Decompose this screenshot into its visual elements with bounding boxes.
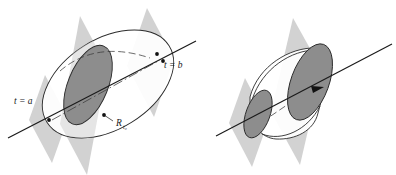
figure-canvas: t = a t = b R t₀ [0,0,396,175]
label-t-equals-b: t = b [164,60,183,70]
right-panel [216,18,392,167]
point-on-upper-curve [155,52,159,56]
figure-root: t = a t = b R t₀ [0,0,396,175]
label-t-equals-a: t = a [14,96,33,106]
label-region-r-base: R [115,118,122,128]
point-at-t-equals-a [47,118,51,122]
label-region-r-subscript: t₀ [123,124,127,130]
left-panel: t = a t = b R t₀ [8,8,196,175]
